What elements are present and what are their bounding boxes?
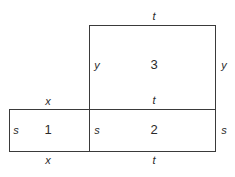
region-3-left-label: y	[94, 59, 100, 71]
region-1-left-label: s	[13, 124, 19, 136]
region-1-bottom-label: x	[45, 154, 51, 166]
region-3-number: 3	[150, 59, 157, 71]
region-2-bottom-label: t	[152, 154, 155, 166]
region-2-right-label: s	[221, 124, 227, 136]
region-2-number: 2	[150, 124, 157, 136]
region-3-top-label: t	[152, 10, 155, 22]
region-1-number: 1	[44, 124, 51, 136]
region-3-right-label: y	[221, 59, 227, 71]
region-2-top-label: t	[152, 94, 155, 106]
region-2-left-label: s	[94, 124, 100, 136]
region-1-top-label: x	[45, 95, 51, 107]
